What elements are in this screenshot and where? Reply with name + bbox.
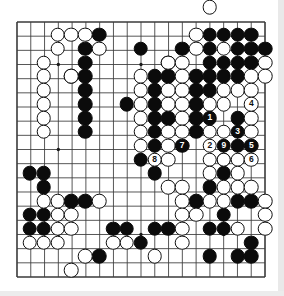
- black-stone: [203, 55, 218, 70]
- white-stone: [50, 208, 65, 223]
- black-stone: [92, 28, 107, 43]
- black-stone: [244, 194, 259, 209]
- white-stone: [216, 41, 231, 56]
- black-stone: [92, 249, 107, 264]
- black-stone: [120, 221, 135, 236]
- white-stone: [175, 180, 190, 195]
- black-stone: [203, 28, 218, 43]
- black-stone: [78, 111, 93, 126]
- black-stone: [244, 249, 259, 264]
- black-stone: [189, 125, 204, 140]
- white-stone: [36, 125, 51, 140]
- numbered-move-7: 7: [175, 138, 190, 153]
- white-stone: [133, 111, 148, 126]
- black-stone: [64, 194, 79, 209]
- white-stone: [50, 28, 65, 43]
- black-stone: [78, 41, 93, 56]
- numbered-move-2: 2: [203, 138, 218, 153]
- black-stone: [120, 97, 135, 112]
- white-stone: [161, 55, 176, 70]
- white-stone: [258, 69, 273, 84]
- black-stone: [230, 138, 245, 153]
- white-stone: [258, 194, 273, 209]
- black-stone: [216, 69, 231, 84]
- white-stone: [175, 97, 190, 112]
- black-stone: [36, 180, 51, 195]
- white-stone: [216, 180, 231, 195]
- black-stone: [203, 69, 218, 84]
- white-stone: [175, 221, 190, 236]
- white-stone: [189, 28, 204, 43]
- white-stone: [36, 235, 51, 250]
- white-stone: [92, 194, 107, 209]
- white-stone: [36, 97, 51, 112]
- black-stone: [161, 111, 176, 126]
- numbered-move-6: 6: [244, 152, 259, 167]
- black-stone: [189, 69, 204, 84]
- white-stone: [161, 138, 176, 153]
- white-stone: [50, 41, 65, 56]
- go-diagram-root: 123456789 Go board diagram: [0, 0, 284, 296]
- white-stone: [50, 194, 65, 209]
- black-stone: [216, 55, 231, 70]
- white-stone: [175, 125, 190, 140]
- white-stone: [244, 111, 259, 126]
- black-stone: [23, 166, 38, 181]
- stone-layer: 123456789: [2, 7, 280, 292]
- white-stone: [161, 180, 176, 195]
- black-stone: [78, 55, 93, 70]
- white-stone: [230, 166, 245, 181]
- white-stone: [64, 69, 79, 84]
- white-stone: [50, 235, 65, 250]
- white-stone: [258, 221, 273, 236]
- black-stone: [230, 111, 245, 126]
- numbered-move-4: 4: [244, 97, 259, 112]
- black-stone: [23, 208, 38, 223]
- white-stone: [23, 235, 38, 250]
- black-stone: [147, 111, 162, 126]
- white-stone: [133, 69, 148, 84]
- white-stone: [78, 249, 93, 264]
- black-stone: [78, 83, 93, 98]
- go-board[interactable]: 123456789: [16, 21, 266, 278]
- black-stone: [203, 221, 218, 236]
- black-stone: [244, 55, 259, 70]
- white-stone: [133, 83, 148, 98]
- white-stone: [175, 235, 190, 250]
- black-stone: [36, 208, 51, 223]
- black-stone: [244, 28, 259, 43]
- white-stone: [64, 208, 79, 223]
- black-stone: [189, 194, 204, 209]
- black-stone: [133, 235, 148, 250]
- black-stone: [78, 194, 93, 209]
- white-stone: [50, 221, 65, 236]
- white-stone: [175, 111, 190, 126]
- black-stone: [216, 208, 231, 223]
- move-number-label: 2: [208, 141, 213, 150]
- white-stone: [216, 194, 231, 209]
- white-stone: [230, 83, 245, 98]
- white-stone: [175, 194, 190, 209]
- black-stone: [23, 221, 38, 236]
- numbered-move-1: 1: [203, 111, 218, 126]
- black-stone: [189, 111, 204, 126]
- white-stone: [133, 125, 148, 140]
- white-stone: [36, 55, 51, 70]
- white-stone: [244, 83, 259, 98]
- black-stone: [258, 41, 273, 56]
- numbered-move-8: 8: [147, 152, 162, 167]
- white-stone: [203, 125, 218, 140]
- diagram-title: Go board diagram: [0, 0, 1, 1]
- numbered-move-5: 5: [244, 138, 259, 153]
- white-stone: [189, 41, 204, 56]
- black-stone: [230, 41, 245, 56]
- black-stone: [106, 221, 121, 236]
- white-stone: [161, 152, 176, 167]
- black-stone: [147, 69, 162, 84]
- white-stone: [161, 125, 176, 140]
- black-stone: [147, 97, 162, 112]
- white-stone: [203, 166, 218, 181]
- white-stone: [161, 97, 176, 112]
- black-stone: [230, 28, 245, 43]
- black-stone: [161, 69, 176, 84]
